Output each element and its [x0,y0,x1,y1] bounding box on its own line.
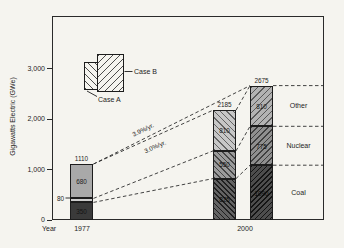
x-tick-label-2000: 2000 [230,225,260,233]
total-label-caseA: 2185 [210,101,240,108]
region-label-nuclear: Nuclear [274,142,324,150]
value-label-caseB-other: 810 [250,103,273,110]
region-label-other: Other [274,102,324,110]
total-label-caseB: 2675 [247,77,277,84]
value-label-caseB-coal: 1090 [250,190,273,197]
y-tick-label-2000: 2,000 [18,115,45,123]
value-label-1977-nuclear: 80 [50,195,64,202]
value-label-caseA-coal: 825 [213,196,236,203]
value-label-1977-coal: 350 [70,208,93,215]
y-axis-label: Gigawatts Electric (GWe) [9,57,18,177]
legend-case-b-label: Case B [134,68,157,76]
value-label-caseA-nuclear: 550 [213,161,236,168]
value-label-caseA-other: 810 [213,127,236,134]
y-tick-2000 [47,119,52,120]
value-label-caseB-nuclear: 775 [250,143,273,150]
y-tick-label-3000: 3,000 [18,65,45,73]
y-tick-0 [47,220,52,221]
stacked-bar-chart: Gigawatts Electric (GWe) 0 1,000 2,000 3… [0,0,344,248]
region-label-coal: Coal [274,189,324,197]
legend-case-a-label: Case A [98,96,121,104]
total-label-1977: 1110 [67,155,97,162]
y-tick-label-1000: 1,000 [18,166,45,174]
y-tick-label-0: 0 [18,216,45,224]
y-tick-1000 [47,169,52,170]
value-label-1977-other: 680 [70,178,93,185]
x-axis-label: Year [42,225,56,233]
legend-case-b-swatch [97,54,124,92]
x-tick-label-1977: 1977 [67,225,97,233]
y-tick-3000 [47,68,52,69]
